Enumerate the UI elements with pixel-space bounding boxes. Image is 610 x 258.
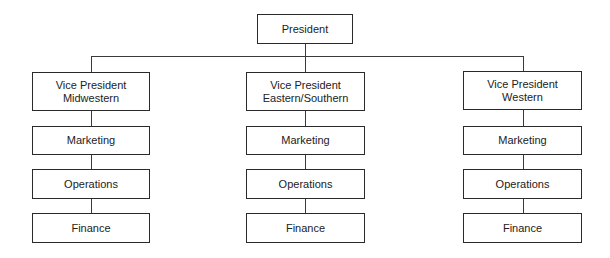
department-label: Finance (503, 222, 542, 235)
department-label: Finance (286, 222, 325, 235)
eastern-operations-box: Operations (246, 169, 365, 199)
western-operations-box: Operations (463, 169, 582, 199)
vp-title: Vice President (270, 79, 341, 92)
president-box: President (257, 14, 353, 44)
connector-col1-vp-marketing (91, 111, 92, 126)
vp-title: Vice President (487, 78, 558, 91)
connector-col3-operations-finance (523, 199, 524, 213)
western-marketing-box: Marketing (463, 126, 582, 155)
connector-to-vp-eastern (305, 56, 306, 72)
vp-midwestern-box: Vice President Midwestern (32, 72, 150, 111)
department-label: Operations (279, 178, 333, 191)
connector-col1-marketing-operations (91, 155, 92, 169)
connector-president-down (305, 44, 306, 56)
vp-region: Western (502, 91, 543, 104)
connector-col3-vp-marketing (523, 110, 524, 126)
vp-title: Vice President (56, 79, 127, 92)
vp-region: Eastern/Southern (263, 92, 349, 105)
department-label: Marketing (281, 134, 329, 147)
department-label: Finance (71, 222, 110, 235)
western-finance-box: Finance (463, 213, 582, 243)
connector-to-vp-western (523, 56, 524, 72)
department-label: Marketing (498, 134, 546, 147)
connector-col3-marketing-operations (523, 155, 524, 169)
connector-col2-vp-marketing (305, 111, 306, 126)
connector-horizontal-bar (91, 56, 523, 57)
eastern-finance-box: Finance (246, 213, 365, 243)
department-label: Operations (496, 178, 550, 191)
department-label: Marketing (67, 134, 115, 147)
midwestern-finance-box: Finance (32, 213, 150, 243)
vp-region: Midwestern (63, 92, 119, 105)
president-label: President (282, 23, 328, 36)
connector-col2-operations-finance (305, 199, 306, 213)
connector-col1-operations-finance (91, 199, 92, 213)
connector-to-vp-midwestern (91, 56, 92, 72)
eastern-marketing-box: Marketing (246, 126, 365, 155)
connector-col2-marketing-operations (305, 155, 306, 169)
midwestern-operations-box: Operations (32, 169, 150, 199)
department-label: Operations (64, 178, 118, 191)
vp-eastern-southern-box: Vice President Eastern/Southern (246, 72, 365, 111)
midwestern-marketing-box: Marketing (32, 126, 150, 155)
vp-western-box: Vice President Western (463, 71, 582, 110)
